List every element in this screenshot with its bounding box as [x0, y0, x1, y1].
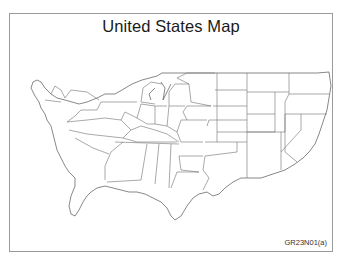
- us-outline: [31, 72, 331, 220]
- us-state-map: [10, 14, 334, 253]
- figure-code-label: GR23N01(a): [284, 238, 327, 247]
- figure-frame: United States Map: [9, 13, 333, 252]
